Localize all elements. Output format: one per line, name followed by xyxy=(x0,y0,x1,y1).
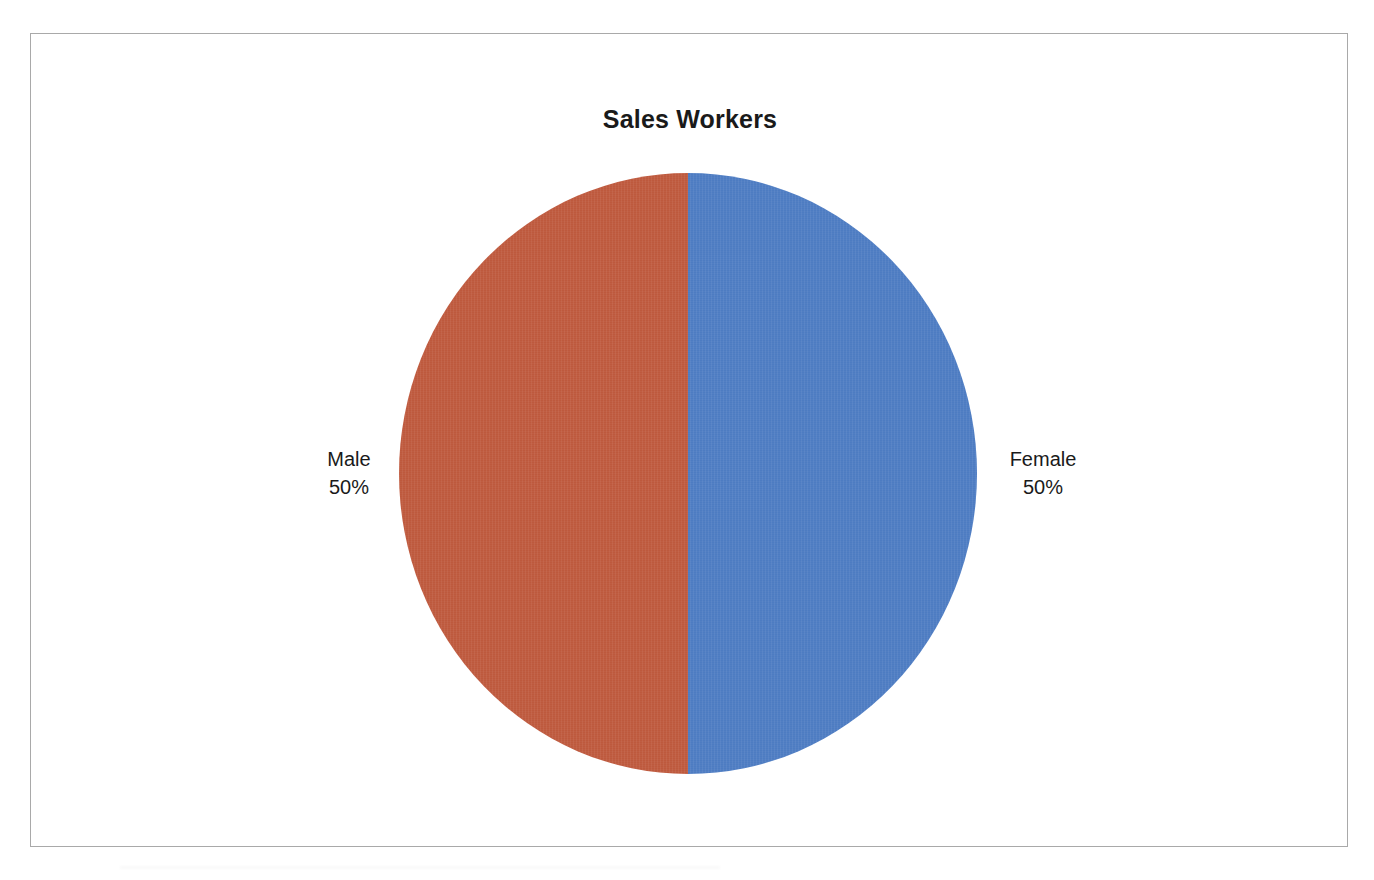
scan-artifact xyxy=(120,866,720,869)
chart-frame: Sales Workers Male 50% Female 50% xyxy=(30,33,1348,847)
pie-label-male-percent: 50% xyxy=(289,473,409,501)
pie-label-female-name: Female xyxy=(983,445,1103,473)
pie-label-male-name: Male xyxy=(289,445,409,473)
chart-title: Sales Workers xyxy=(31,105,1349,134)
pie-label-male: Male 50% xyxy=(289,445,409,501)
pie-slice-female[interactable] xyxy=(688,173,977,774)
pie-plot-area xyxy=(399,173,977,774)
pie-chart xyxy=(399,173,977,774)
pie-slice-male[interactable] xyxy=(399,173,688,774)
pie-label-female: Female 50% xyxy=(983,445,1103,501)
pie-label-female-percent: 50% xyxy=(983,473,1103,501)
